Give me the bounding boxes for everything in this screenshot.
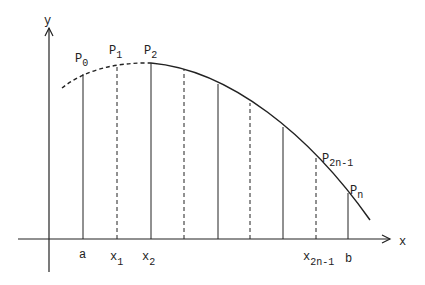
tick-b: b — [345, 252, 352, 266]
label-p2: P2 — [144, 44, 157, 61]
curve-dashed-segment — [62, 63, 151, 88]
label-p1: P1 — [109, 44, 122, 61]
y-axis-label: y — [44, 14, 51, 28]
x-axis-label: x — [399, 235, 406, 249]
tick-x2: x2 — [142, 250, 155, 268]
label-p0: P0 — [75, 52, 88, 69]
simpson-diagram: y x P0 P1 P2 P2n-1 Pn a x1 x2 x2n-1 b — [0, 0, 425, 285]
label-pn: Pn — [350, 184, 363, 201]
tick-a: a — [79, 248, 86, 262]
tick-x1: x1 — [110, 250, 123, 268]
tick-x2n-1: x2n-1 — [303, 250, 334, 268]
